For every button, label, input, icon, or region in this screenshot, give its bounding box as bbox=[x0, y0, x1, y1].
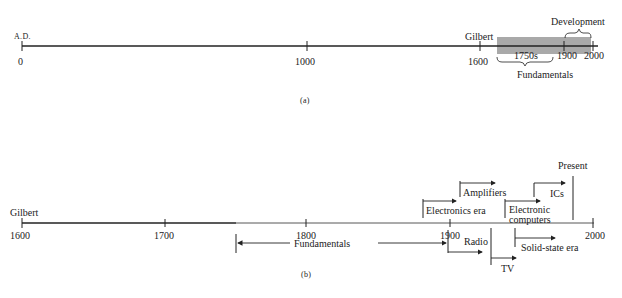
development-bracket bbox=[565, 29, 591, 38]
label-radio: Radio bbox=[464, 236, 488, 247]
label-ics: ICs bbox=[550, 188, 564, 199]
caption-a: (a) bbox=[300, 96, 310, 105]
timeline-graphics bbox=[0, 0, 622, 298]
tick-label-1900: 1900 bbox=[557, 50, 577, 61]
era-label: A.D. bbox=[14, 32, 31, 41]
tick-label-2000: 2000 bbox=[585, 230, 605, 241]
tick-label-0: 0 bbox=[18, 56, 23, 67]
label-tv: TV bbox=[501, 263, 514, 274]
label-present: Present bbox=[558, 160, 587, 171]
label-fundamentals: Fundamentals bbox=[517, 69, 573, 80]
label-development: Development bbox=[551, 16, 605, 27]
event-gilbert: Gilbert bbox=[465, 31, 493, 42]
tick-label-1900: 1900 bbox=[440, 230, 460, 241]
tick-label-1700: 1700 bbox=[154, 230, 174, 241]
event-gilbert: Gilbert bbox=[10, 207, 38, 218]
tick-label-1600: 1600 bbox=[10, 230, 30, 241]
caption-b: (b) bbox=[301, 270, 311, 279]
label-electronics-era: Electronics era bbox=[426, 205, 486, 216]
tick-label-1000: 1000 bbox=[295, 56, 315, 67]
label-fundamentals: Fundamentals bbox=[294, 238, 350, 249]
tick-label-1600: 1600 bbox=[468, 56, 488, 67]
label-solid-state-era: Solid-state era bbox=[521, 242, 578, 253]
label-electronic-computers-2: computers bbox=[509, 214, 551, 225]
tick-label-2000: 2000 bbox=[584, 50, 604, 61]
tick-label-1750s: 1750s bbox=[514, 50, 538, 61]
label-amplifiers: Amplifiers bbox=[463, 187, 506, 198]
